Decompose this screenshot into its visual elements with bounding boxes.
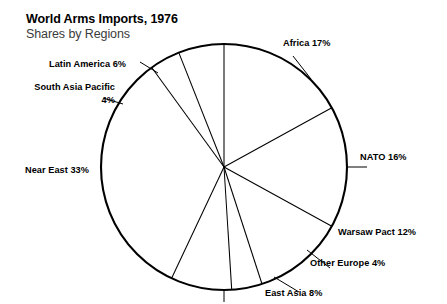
slice-label-south-asia-pacific-line2: 4% — [102, 95, 115, 105]
slice-label-africa: Africa 17% — [283, 38, 330, 48]
slice-label-other-europe: Other Europe 4% — [310, 258, 385, 268]
slice-label-near-east: Near East 33% — [25, 165, 89, 175]
slice-label-east-asia: East Asia 8% — [265, 288, 322, 298]
slice-label-latin-america: Latin America 6% — [49, 59, 126, 69]
slice-label-warsaw-pact: Warsaw Pact 12% — [338, 227, 416, 237]
slice-label-nato: NATO 16% — [360, 152, 407, 162]
slice-label-south-asia-pacific-line1: South Asia Pacific — [34, 82, 115, 92]
slice-label-south-asia-pacific: South Asia Pacific 4% — [10, 81, 115, 108]
chart-page: World Arms Imports, 1976 Shares by Regio… — [0, 0, 447, 304]
